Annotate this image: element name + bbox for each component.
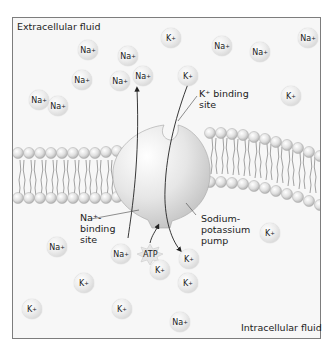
potassium-ion: K+ xyxy=(178,273,198,293)
potassium-ion: K+ xyxy=(178,66,198,86)
sodium-ion: Na+ xyxy=(78,40,98,60)
sodium-potassium-pump xyxy=(113,125,210,228)
potassium-ion: K+ xyxy=(260,223,280,243)
sodium-ion: Na+ xyxy=(48,96,68,116)
sodium-ion: Na+ xyxy=(250,42,270,62)
sodium-ion: Na+ xyxy=(72,70,92,90)
potassium-ion: K+ xyxy=(161,28,181,48)
potassium-ion: K+ xyxy=(281,86,301,106)
sodium-ion: Na+ xyxy=(170,312,190,332)
potassium-ion: K+ xyxy=(22,299,42,319)
sodium-ion: Na+ xyxy=(111,244,131,264)
atp-arrow xyxy=(150,226,158,243)
intracellular-label: Intracellular fluid xyxy=(241,322,322,333)
potassium-ion: K+ xyxy=(150,260,170,280)
potassium-ion: K+ xyxy=(112,299,132,319)
potassium-ion: K+ xyxy=(74,273,94,293)
pump-label: Sodium- potassium pump xyxy=(201,213,250,246)
sodium-ion: Na+ xyxy=(47,237,67,257)
k-binding-site-label: K⁺ binding site xyxy=(199,88,249,110)
potassium-ion: K+ xyxy=(179,249,199,269)
extracellular-label: Extracellular fluid xyxy=(17,21,101,32)
sodium-ion: Na+ xyxy=(133,66,153,86)
atp-label: ATP xyxy=(143,249,158,260)
sodium-ion: Na+ xyxy=(298,28,318,48)
sodium-ion: Na+ xyxy=(212,36,232,56)
sodium-potassium-pump-diagram: Na+Na+Na+Na+Na+Na+Na+K+Na+Na+Na+K+K+Na+N… xyxy=(0,0,332,350)
diagram-graphics xyxy=(0,0,332,350)
sodium-ion: Na+ xyxy=(29,90,49,110)
na-binding-site-label: Na⁺- binding site xyxy=(80,212,115,245)
sodium-ion: Na+ xyxy=(118,46,138,66)
sodium-ion: Na+ xyxy=(110,71,130,91)
